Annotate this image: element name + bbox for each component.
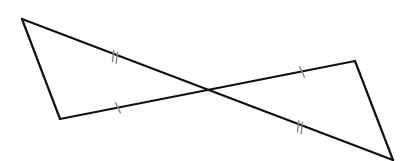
segments-group: [22, 19, 393, 160]
segment-CD: [355, 61, 393, 160]
segment-AB: [22, 19, 60, 119]
diagram-svg: [0, 0, 413, 161]
tick-marks-group: [112, 50, 304, 134]
bowtie-triangles-diagram: [0, 0, 413, 161]
segment-BC: [60, 61, 355, 119]
tick-mark-icon: [112, 50, 114, 62]
tick-mark-icon: [297, 120, 298, 132]
tick-mark-icon: [301, 122, 302, 134]
tick-mark-icon: [116, 52, 118, 64]
